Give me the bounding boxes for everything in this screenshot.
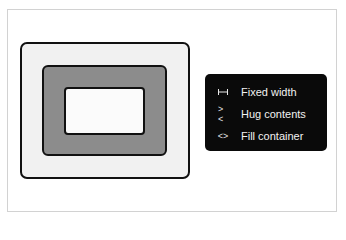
resizing-menu: Fixed width >< Hug contents <> Fill cont…: [205, 74, 327, 151]
menu-item-label: Hug contents: [241, 108, 306, 120]
menu-item-label: Fill container: [241, 130, 303, 142]
menu-item-label: Fixed width: [241, 86, 297, 98]
inner-frame-box: [64, 87, 145, 135]
fixed-width-icon: [218, 89, 228, 95]
fill-container-icon: <>: [218, 131, 228, 141]
menu-item-fill-container[interactable]: <> Fill container: [205, 125, 327, 147]
menu-item-fixed-width[interactable]: Fixed width: [205, 81, 327, 103]
menu-item-hug-contents[interactable]: >< Hug contents: [205, 103, 327, 125]
hug-contents-icon: ><: [218, 104, 228, 124]
